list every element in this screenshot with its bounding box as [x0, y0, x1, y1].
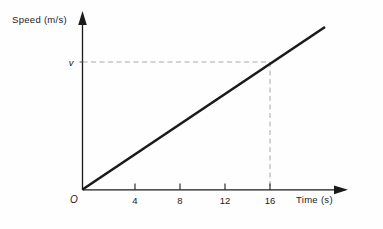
x-tick-label-4: 4: [132, 195, 137, 206]
speed-time-graph-figure: Speed (m/s) Time (s) O v 4 8 12 16: [0, 0, 383, 229]
x-tick-label-16: 16: [265, 195, 276, 206]
x-tick-label-12: 12: [220, 195, 231, 206]
y-axis-label: Speed (m/s): [12, 14, 67, 25]
origin-label: O: [70, 194, 78, 205]
graph-canvas: Speed (m/s) Time (s) O v 4 8 12 16: [0, 0, 383, 229]
x-axis-label: Time (s): [296, 194, 333, 205]
x-tick-label-8: 8: [177, 195, 182, 206]
